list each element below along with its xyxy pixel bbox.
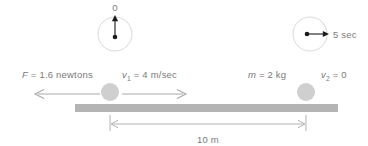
mass-symbol: m	[248, 69, 256, 80]
velocity-2-label: v2 = 0	[321, 69, 347, 82]
start-clock-label: 0	[112, 2, 117, 13]
ball-left	[101, 83, 119, 101]
ground-bar	[75, 104, 338, 112]
end-clock-label: 5 sec	[333, 29, 357, 40]
start-clock-center-dot	[113, 35, 118, 40]
velocity-1-value: = 4 m/sec	[131, 69, 177, 80]
force-arrow	[35, 90, 100, 99]
physics-diagram-figure: 0 5 sec F = 1.6 newtons v1 = 4 m/sec m =…	[0, 0, 368, 146]
end-clock-center-dot	[305, 32, 310, 37]
velocity-2-value: = 0	[330, 69, 347, 80]
mass-label: m = 2 kg	[248, 69, 286, 80]
end-clock-hand-arrowhead	[323, 31, 329, 37]
distance-label: 10 m	[197, 134, 219, 145]
velocity-1-label: v1 = 4 m/sec	[122, 69, 177, 82]
mass-value: = 2 kg	[256, 69, 286, 80]
end-clock: 5 sec	[293, 17, 357, 51]
distance-dimension: 10 m	[110, 115, 306, 145]
diagram-canvas: 0 5 sec F = 1.6 newtons v1 = 4 m/sec m =…	[0, 0, 368, 146]
start-clock-hand-arrowhead	[112, 15, 118, 21]
velocity-arrow	[122, 90, 186, 99]
start-clock: 0	[98, 2, 132, 51]
force-value: = 1.6 newtons	[28, 69, 93, 80]
force-label: F = 1.6 newtons	[22, 69, 93, 80]
ball-right	[297, 83, 315, 101]
